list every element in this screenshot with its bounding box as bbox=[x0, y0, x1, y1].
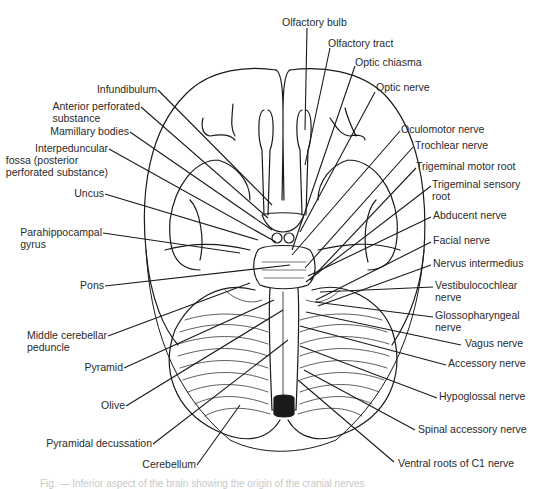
medulla bbox=[269, 288, 299, 410]
label-text-line: Glossopharyngeal bbox=[435, 309, 520, 321]
label-text-line: Olfactory bulb bbox=[282, 16, 347, 28]
olive-leader-line bbox=[126, 310, 283, 406]
label-text-line: Parahippocampal bbox=[20, 226, 102, 238]
left-hemisphere-outline bbox=[144, 68, 276, 345]
label-text-line: Nervus intermedius bbox=[433, 257, 523, 269]
label-trigeminal-sensory-root: Trigeminal sensoryroot bbox=[432, 178, 520, 202]
abducent-nerve-leader-line bbox=[308, 217, 431, 276]
label-olive: Olive bbox=[101, 399, 125, 411]
label-spinal-accessory-nerve: Spinal accessory nerve bbox=[418, 423, 527, 435]
label-text-line: Abducent nerve bbox=[433, 209, 507, 221]
label-text-line: peduncle bbox=[27, 341, 107, 353]
label-olfactory-tract: Olfactory tract bbox=[328, 37, 393, 49]
parahippocampal-gyrus-leader-line bbox=[103, 233, 240, 253]
label-hypoglossal-nerve: Hypoglossal nerve bbox=[439, 390, 525, 402]
label-parahippocampal-gyrus: Parahippocampalgyrus bbox=[20, 226, 102, 250]
label-pons: Pons bbox=[80, 279, 104, 291]
label-pyramid: Pyramid bbox=[84, 361, 123, 373]
label-text-line: Trigeminal motor root bbox=[416, 160, 515, 172]
longitudinal-fissure bbox=[276, 70, 290, 200]
label-text-line: Anterior perforated bbox=[52, 100, 140, 112]
label-infundibulum: Infundibulum bbox=[97, 83, 157, 95]
middle-cerebellar-peduncle-leader-line bbox=[108, 283, 250, 336]
label-text-line: Spinal accessory nerve bbox=[418, 423, 527, 435]
mamillary-bodies-leader-line bbox=[130, 132, 272, 230]
label-text-line: Accessory nerve bbox=[448, 357, 526, 369]
olfactory-tract-leader-line bbox=[305, 48, 330, 165]
spinal-cord-section bbox=[274, 395, 294, 417]
label-text-line: Trigeminal sensory bbox=[432, 178, 520, 190]
label-text-line: substance bbox=[52, 112, 140, 124]
label-text-line: Vagus nerve bbox=[465, 337, 523, 349]
figure-caption: Fig. — Inferior aspect of the brain show… bbox=[40, 478, 365, 489]
label-text-line: Interpeduncular bbox=[6, 142, 108, 154]
label-trochlear-nerve: Trochlear nerve bbox=[415, 139, 488, 151]
label-text-line: Facial nerve bbox=[433, 234, 490, 246]
mamillary-body-right bbox=[284, 233, 294, 243]
label-text-line: Trochlear nerve bbox=[415, 139, 488, 151]
label-middle-cerebellar-peduncle: Middle cerebellarpeduncle bbox=[27, 329, 107, 353]
label-text-line: Optic chiasma bbox=[355, 56, 422, 68]
uncus-leader-line bbox=[105, 194, 258, 240]
optic-chiasma bbox=[262, 213, 304, 232]
label-ventral-roots-of-c1-nerve: Ventral roots of C1 nerve bbox=[398, 457, 514, 469]
accessory-nerve-leader-line bbox=[300, 326, 446, 365]
label-vestibulocochlear-nerve: Vestibulocochlearnerve bbox=[435, 279, 517, 303]
label-pyramidal-decussation: Pyramidal decussation bbox=[46, 437, 152, 449]
mamillary-body-left bbox=[272, 233, 282, 243]
cerebellum-left bbox=[169, 287, 280, 438]
label-text-line: Pyramid bbox=[84, 361, 123, 373]
label-uncus: Uncus bbox=[74, 187, 104, 199]
label-text-line: Pyramidal decussation bbox=[46, 437, 152, 449]
label-trigeminal-motor-root: Trigeminal motor root bbox=[416, 160, 515, 172]
label-nervus-intermedius: Nervus intermedius bbox=[433, 257, 523, 269]
label-text-line: Middle cerebellar bbox=[27, 329, 107, 341]
hypoglossal-nerve-leader-line bbox=[300, 346, 437, 398]
label-text-line: perforated substance) bbox=[6, 166, 108, 178]
label-text-line: Hypoglossal nerve bbox=[439, 390, 525, 402]
label-optic-nerve: Optic nerve bbox=[376, 81, 430, 93]
pyramid-leader-line bbox=[124, 300, 274, 368]
label-text-line: nerve bbox=[435, 291, 517, 303]
label-text-line: Pons bbox=[80, 279, 104, 291]
label-text-line: Ventral roots of C1 nerve bbox=[398, 457, 514, 469]
label-text-line: nerve bbox=[435, 321, 520, 333]
label-oculomotor-nerve: Oculomotor nerve bbox=[401, 123, 484, 135]
label-text-line: Cerebellum bbox=[142, 458, 196, 470]
label-text-line: root bbox=[432, 190, 520, 202]
infundibulum-leader-line bbox=[158, 90, 272, 205]
label-facial-nerve: Facial nerve bbox=[433, 234, 490, 246]
label-text-line: Mamillary bodies bbox=[50, 125, 129, 137]
label-interpeduncular-fossa: Interpeduncularfossa (posteriorperforate… bbox=[6, 142, 108, 178]
label-text-line: fossa (posterior bbox=[6, 154, 108, 166]
pons-leader-line bbox=[105, 265, 290, 286]
label-cerebellum: Cerebellum bbox=[142, 458, 196, 470]
left-temporal-lobe bbox=[170, 160, 250, 270]
label-text-line: Optic nerve bbox=[376, 81, 430, 93]
label-glossopharyngeal-nerve: Glossopharyngealnerve bbox=[435, 309, 520, 333]
optic-nerve-leader-line bbox=[300, 92, 375, 232]
olfactory-bulb-leader-line bbox=[305, 28, 307, 130]
label-optic-chiasma: Optic chiasma bbox=[355, 56, 422, 68]
label-olfactory-bulb: Olfactory bulb bbox=[282, 16, 347, 28]
label-text-line: Olive bbox=[101, 399, 125, 411]
label-accessory-nerve: Accessory nerve bbox=[448, 357, 526, 369]
label-text-line: Olfactory tract bbox=[328, 37, 393, 49]
anterior-perforated-substance-leader-line bbox=[141, 107, 268, 218]
label-text-line: gyrus bbox=[20, 238, 102, 250]
label-abducent-nerve: Abducent nerve bbox=[433, 209, 507, 221]
label-text-line: Oculomotor nerve bbox=[401, 123, 484, 135]
label-anterior-perforated-substance: Anterior perforatedsubstance bbox=[52, 100, 140, 124]
label-text-line: Vestibulocochlear bbox=[435, 279, 517, 291]
label-mamillary-bodies: Mamillary bodies bbox=[50, 125, 129, 137]
label-text-line: Uncus bbox=[74, 187, 104, 199]
interpeduncular-fossa-leader-line bbox=[109, 149, 276, 242]
label-vagus-nerve: Vagus nerve bbox=[465, 337, 523, 349]
label-text-line: Infundibulum bbox=[97, 83, 157, 95]
